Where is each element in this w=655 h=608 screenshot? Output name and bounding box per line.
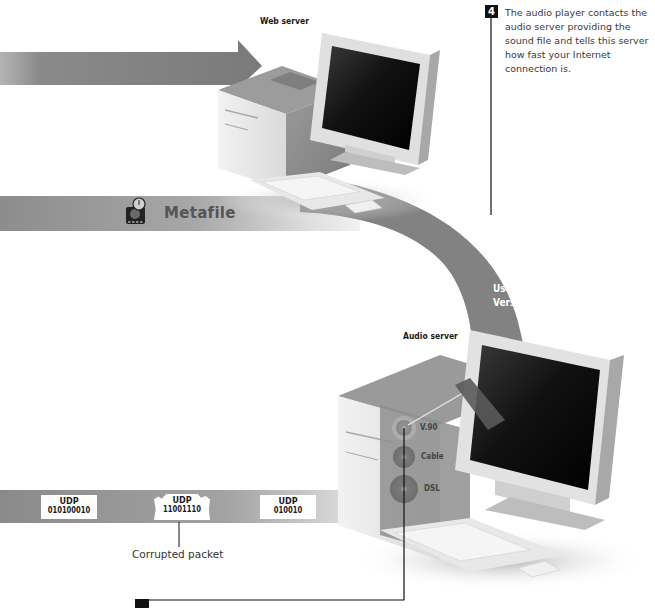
step5-box <box>135 599 149 608</box>
udp-packet-title: UDP <box>264 495 312 506</box>
diagram-scene <box>0 0 655 608</box>
web-server-label: Web server <box>260 16 309 26</box>
corrupted-packet-caption: Corrupted packet <box>132 548 223 560</box>
audio-server-label: Audio server <box>403 331 458 341</box>
udp-packet-bits: 11001110 <box>158 505 206 515</box>
connection-label-v90: V.90 <box>420 422 437 432</box>
udp-packet: UDP 010010 <box>260 495 316 519</box>
connection-label-dsl: DSL <box>424 483 440 493</box>
incoming-arrow <box>0 40 262 88</box>
udp-packet: UDP 010100010 <box>41 495 97 519</box>
udp-packet-bits: 010100010 <box>45 506 93 516</box>
step4-badge: 4 <box>485 5 498 18</box>
curved-arrow-label-line1: Use V.90 <box>493 282 537 296</box>
metafile-label: Metafile <box>164 204 236 222</box>
connection-label-cable: Cable <box>421 451 444 461</box>
udp-packet-bits: 010010 <box>264 506 312 516</box>
metafile-icon <box>125 197 147 227</box>
udp-packet-title: UDP <box>158 494 206 505</box>
audio-server-computer <box>338 330 650 590</box>
step4-description: The audio player contacts the audio serv… <box>505 6 655 76</box>
udp-packet-title: UDP <box>45 495 93 506</box>
curved-arrow-label-line2: Version <box>493 296 531 310</box>
